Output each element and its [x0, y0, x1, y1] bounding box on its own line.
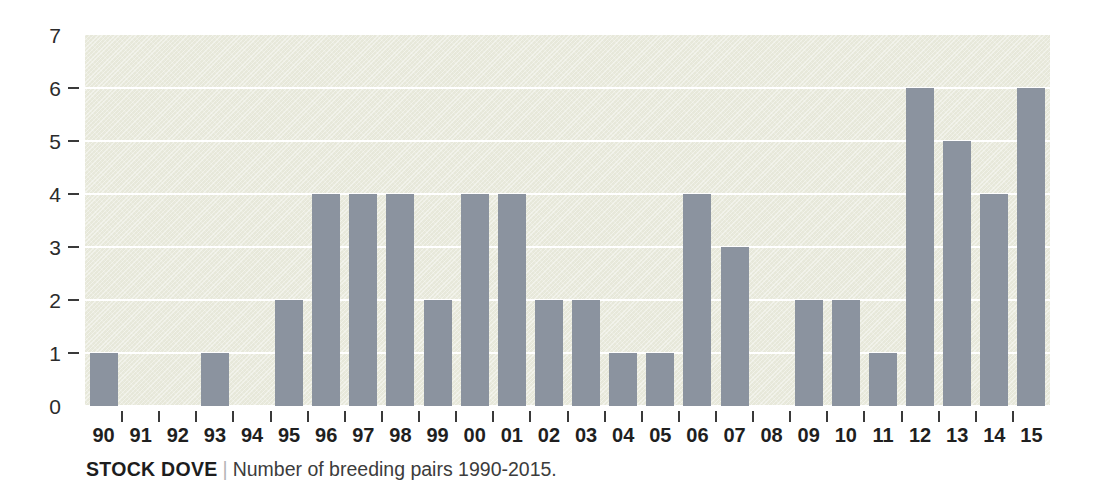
x-tick-mark-20	[826, 411, 828, 422]
y-tick-2: 2	[49, 290, 85, 310]
x-tick-mark-4	[232, 411, 234, 422]
caption-separator: |	[218, 458, 233, 480]
x-tick-label-09: 09	[790, 425, 827, 445]
bar-93	[201, 353, 229, 406]
y-tick-4: 4	[49, 184, 85, 204]
caption-title: STOCK DOVE	[86, 458, 218, 480]
x-tick-mark-11	[492, 411, 494, 422]
bar-90	[90, 353, 118, 406]
x-tick-label-11: 11	[864, 425, 901, 445]
x-tick-label-13: 13	[939, 425, 976, 445]
x-tick-mark-5	[270, 411, 272, 422]
x-tick-label-04: 04	[605, 425, 642, 445]
x-axis: 9091929394959697989900010203040506070809…	[85, 406, 1050, 451]
bar-05	[646, 353, 674, 406]
x-tick-mark-6	[307, 411, 309, 422]
x-tick-mark-23	[938, 411, 940, 422]
x-tick-label-10: 10	[827, 425, 864, 445]
bar-15	[1017, 88, 1045, 406]
y-tick-dash-7	[68, 34, 79, 36]
x-tick-mark-14	[604, 411, 606, 422]
x-tick-label-92: 92	[159, 425, 196, 445]
x-tick-mark-21	[863, 411, 865, 422]
x-tick-label-00: 00	[456, 425, 493, 445]
y-tick-label-1: 1	[49, 343, 61, 364]
y-tick-label-2: 2	[49, 290, 61, 311]
x-tick-mark-25	[1012, 411, 1014, 422]
x-tick-mark-12	[529, 411, 531, 422]
x-tick-label-15: 15	[1013, 425, 1050, 445]
y-tick-5: 5	[49, 131, 85, 151]
stock-dove-bar-chart: 76543210 9091929394959697989900010203040…	[0, 0, 1101, 494]
x-tick-mark-8	[381, 411, 383, 422]
y-tick-dash-1	[68, 352, 79, 354]
x-tick-label-12: 12	[902, 425, 939, 445]
x-tick-label-98: 98	[382, 425, 419, 445]
x-tick-mark-15	[641, 411, 643, 422]
x-tick-mark-3	[195, 411, 197, 422]
y-tick-dash-0	[68, 405, 79, 407]
x-tick-mark-10	[455, 411, 457, 422]
x-tick-mark-19	[789, 411, 791, 422]
bar-11	[869, 353, 897, 406]
x-tick-mark-22	[901, 411, 903, 422]
x-tick-mark-16	[678, 411, 680, 422]
y-tick-7: 7	[49, 25, 85, 45]
x-tick-mark-18	[752, 411, 754, 422]
y-axis: 76543210	[0, 0, 85, 440]
bar-10	[832, 300, 860, 406]
bar-03	[572, 300, 600, 406]
x-tick-label-96: 96	[308, 425, 345, 445]
y-tick-label-7: 7	[49, 25, 61, 46]
x-tick-label-07: 07	[716, 425, 753, 445]
x-tick-mark-9	[418, 411, 420, 422]
bar-14	[980, 194, 1008, 406]
x-tick-label-90: 90	[85, 425, 122, 445]
x-tick-label-93: 93	[196, 425, 233, 445]
y-tick-label-6: 6	[49, 78, 61, 99]
caption: STOCK DOVE|Number of breeding pairs 1990…	[86, 459, 557, 480]
bar-12	[906, 88, 934, 406]
y-tick-3: 3	[49, 237, 85, 257]
x-tick-mark-1	[121, 411, 123, 422]
y-tick-dash-4	[68, 193, 79, 195]
x-tick-mark-7	[344, 411, 346, 422]
y-tick-dash-6	[68, 87, 79, 89]
bar-07	[721, 247, 749, 406]
x-tick-label-01: 01	[493, 425, 530, 445]
y-tick-label-4: 4	[49, 184, 61, 205]
y-tick-dash-2	[68, 299, 79, 301]
y-tick-dash-3	[68, 246, 79, 248]
bar-06	[683, 194, 711, 406]
y-tick-dash-5	[68, 140, 79, 142]
bar-13	[943, 141, 971, 406]
x-tick-label-94: 94	[233, 425, 270, 445]
x-tick-label-05: 05	[642, 425, 679, 445]
y-tick-6: 6	[49, 78, 85, 98]
bar-97	[349, 194, 377, 406]
x-tick-label-97: 97	[345, 425, 382, 445]
x-tick-label-06: 06	[679, 425, 716, 445]
plot-area	[85, 35, 1050, 406]
x-tick-mark-13	[567, 411, 569, 422]
x-tick-label-99: 99	[419, 425, 456, 445]
x-tick-mark-24	[975, 411, 977, 422]
bar-96	[312, 194, 340, 406]
y-tick-1: 1	[49, 343, 85, 363]
bar-00	[461, 194, 489, 406]
x-tick-label-03: 03	[568, 425, 605, 445]
x-tick-label-14: 14	[976, 425, 1013, 445]
bar-01	[498, 194, 526, 406]
y-tick-label-0: 0	[49, 396, 61, 417]
bar-99	[424, 300, 452, 406]
y-tick-label-5: 5	[49, 131, 61, 152]
x-tick-label-95: 95	[271, 425, 308, 445]
bar-98	[386, 194, 414, 406]
x-tick-mark-2	[158, 411, 160, 422]
bar-02	[535, 300, 563, 406]
y-tick-0: 0	[49, 396, 85, 416]
bar-95	[275, 300, 303, 406]
x-tick-label-91: 91	[122, 425, 159, 445]
x-tick-label-08: 08	[753, 425, 790, 445]
bar-04	[609, 353, 637, 406]
